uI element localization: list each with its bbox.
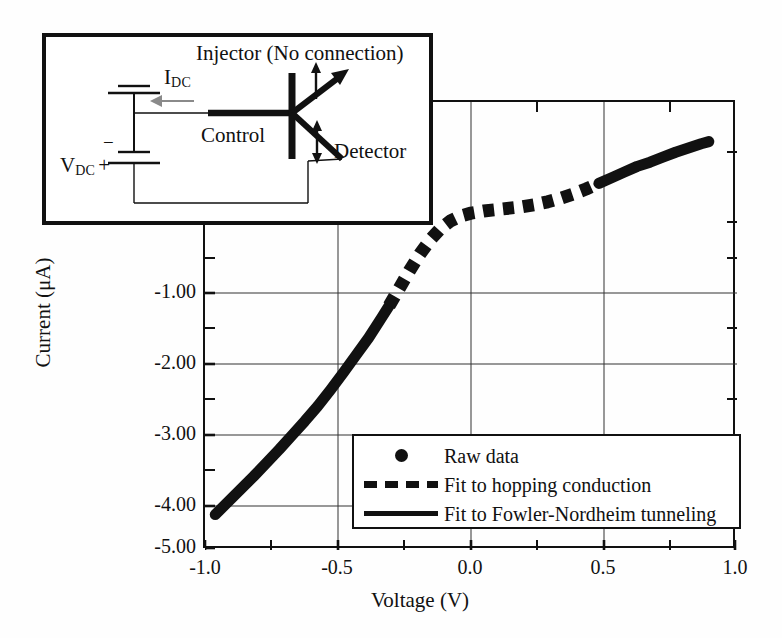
x-tick-label: -1.0 bbox=[189, 556, 221, 578]
legend: Raw data Fit to hopping conduction Fit t… bbox=[352, 434, 741, 529]
y-tick-label: -5.00 bbox=[154, 536, 196, 556]
figure-canvas: -1.00 -2.00 -3.00 -4.00 -5.00 -1.0 -0.5 … bbox=[0, 0, 782, 638]
current-arrow-head bbox=[150, 95, 162, 107]
data-series-solid bbox=[599, 142, 709, 184]
inset-label-detector: Detector bbox=[334, 141, 406, 162]
inset-label-control: Control bbox=[201, 125, 265, 146]
dot-marker-icon bbox=[358, 441, 444, 470]
x-axis-title-text: Voltage (V) bbox=[371, 588, 469, 612]
spin-arrow-detector-head-down bbox=[312, 153, 322, 164]
inset-circuit-diagram: Injector (No connection) IDC VDC+ − Cont… bbox=[42, 33, 433, 225]
x-tick-label: 0.0 bbox=[458, 556, 483, 578]
spin-arrow-detector-head-up bbox=[312, 120, 322, 131]
legend-item-fowler-nordheim: Fit to Fowler-Nordheim tunneling bbox=[354, 499, 739, 528]
voltage-plus-sign: + bbox=[98, 153, 110, 177]
y-tick-label: -4.00 bbox=[154, 494, 196, 514]
y-axis-title: Current (μA) bbox=[31, 208, 56, 418]
inset-title-injector: Injector (No connection) bbox=[196, 43, 404, 64]
legend-item-raw-data: Raw data bbox=[354, 441, 739, 470]
x-tick-label: 1.0 bbox=[723, 556, 748, 578]
y-tick-label: -2.00 bbox=[154, 352, 196, 372]
solid-line-icon bbox=[358, 499, 444, 528]
legend-label: Fit to Fowler-Nordheim tunneling bbox=[444, 504, 716, 524]
dashed-line-icon bbox=[358, 470, 444, 499]
x-tick-label: -0.5 bbox=[321, 556, 353, 578]
voltage-symbol: V bbox=[60, 153, 75, 177]
legend-label: Raw data bbox=[444, 446, 519, 466]
inset-label-current-source: IDC bbox=[164, 67, 191, 93]
x-tick-label: 0.5 bbox=[591, 556, 616, 578]
inset-label-voltage-source: VDC+ bbox=[60, 155, 110, 181]
current-subscript: DC bbox=[171, 75, 191, 90]
y-tick-label: -3.00 bbox=[154, 423, 196, 443]
legend-item-hopping-conduction: Fit to hopping conduction bbox=[354, 470, 739, 499]
current-symbol: I bbox=[164, 65, 171, 89]
legend-label: Fit to hopping conduction bbox=[444, 475, 651, 495]
y-tick-label: -1.00 bbox=[154, 281, 196, 301]
inset-label-voltage-minus: − bbox=[103, 132, 114, 153]
voltage-subscript: DC bbox=[75, 163, 95, 178]
x-axis-title: Voltage (V) bbox=[0, 588, 782, 613]
x-tick-labels: -1.0 -0.5 0.0 0.5 1.0 bbox=[0, 556, 782, 586]
